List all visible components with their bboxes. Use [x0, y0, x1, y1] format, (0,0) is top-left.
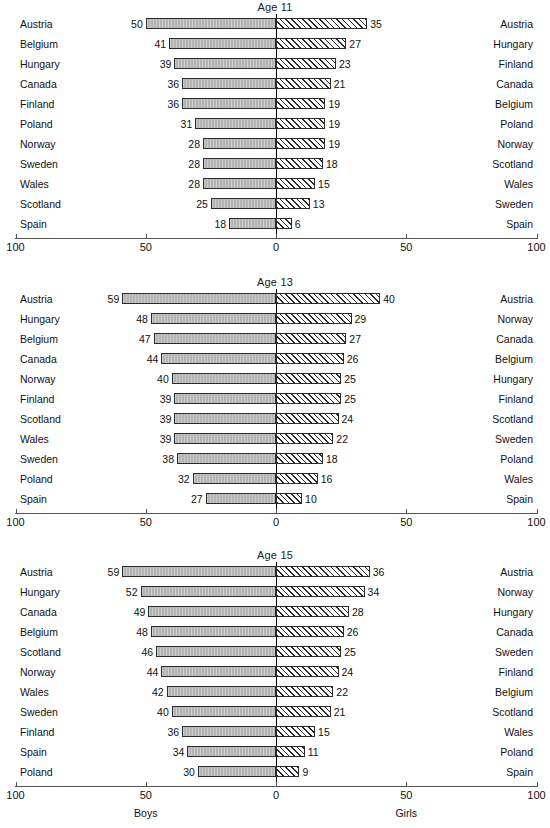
bar-row: SwedenScotland4021: [0, 702, 550, 722]
bar-value-boys: 31: [147, 114, 192, 134]
bar-girls: [276, 686, 333, 697]
panel-age-13: Age 13AustriaAustria5940HungaryNorway482…: [0, 275, 550, 531]
axis-tick: [276, 509, 277, 514]
bar-row: SpainPoland3411: [0, 742, 550, 762]
bar-value-boys: 40: [124, 702, 169, 722]
bar-row: SpainSpain2710: [0, 489, 550, 509]
bar-boys: [161, 353, 276, 364]
bar-boys: [195, 118, 276, 129]
bar-row: NorwayNorway2819: [0, 134, 550, 154]
bar-row: SwedenPoland3818: [0, 449, 550, 469]
bar-value-boys: 18: [181, 214, 226, 234]
bar-girls: [276, 586, 365, 597]
row-label-left: Sweden: [20, 449, 58, 469]
row-label-left: Hungary: [20, 309, 60, 329]
axis-tick: [146, 782, 147, 787]
axis-tick: [406, 234, 407, 239]
row-label-right: Spain: [506, 762, 533, 782]
row-label-left: Spain: [20, 489, 47, 509]
row-label-left: Scotland: [20, 194, 61, 214]
bar-value-girls: 6: [295, 214, 340, 234]
bar-girls: [276, 666, 339, 677]
bar-boys: [174, 413, 276, 424]
row-label-right: Austria: [500, 14, 533, 34]
bar-value-girls: 18: [326, 449, 371, 469]
bar-row: FinlandFinland3925: [0, 389, 550, 409]
row-label-right: Poland: [500, 449, 533, 469]
bar-value-boys: 28: [155, 174, 200, 194]
bar-value-boys: 32: [145, 469, 190, 489]
bar-value-boys: 50: [98, 14, 143, 34]
bar-boys: [148, 606, 276, 617]
axis-tick: [537, 509, 538, 514]
row-label-left: Scotland: [20, 642, 61, 662]
bar-row: NorwayHungary4025: [0, 369, 550, 389]
bar-girls: [276, 198, 310, 209]
axis-tick-label: 0: [273, 788, 279, 802]
bar-boys: [151, 626, 276, 637]
plot-area: AustriaAustria5035BelgiumHungary4127Hung…: [0, 14, 550, 234]
bar-boys: [122, 566, 276, 577]
row-label-left: Canada: [20, 349, 57, 369]
bar-row: SpainSpain186: [0, 214, 550, 234]
bar-value-girls: 27: [349, 329, 394, 349]
axis-tick-label: 100: [6, 788, 24, 802]
row-label-right: Scotland: [492, 154, 533, 174]
axis-captions: BoysGirls: [0, 804, 550, 822]
bar-value-boys: 39: [126, 409, 171, 429]
bar-row: AustriaAustria5035: [0, 14, 550, 34]
row-label-left: Norway: [20, 134, 56, 154]
bar-value-girls: 15: [318, 174, 363, 194]
bar-boys: [156, 646, 276, 657]
bar-girls: [276, 433, 333, 444]
row-label-left: Wales: [20, 429, 49, 449]
row-label-right: Norway: [497, 309, 533, 329]
row-label-right: Poland: [500, 114, 533, 134]
row-label-left: Poland: [20, 469, 53, 489]
row-label-right: Belgium: [495, 349, 533, 369]
row-label-left: Hungary: [20, 582, 60, 602]
bar-row: FinlandBelgium3619: [0, 94, 550, 114]
bar-value-girls: 25: [344, 642, 389, 662]
bar-girls: [276, 413, 339, 424]
row-label-left: Norway: [20, 662, 56, 682]
bar-girls: [276, 746, 305, 757]
bar-boys: [182, 98, 276, 109]
bar-row: HungaryFinland3923: [0, 54, 550, 74]
bar-value-boys: 36: [134, 94, 179, 114]
bar-row: WalesBelgium4222: [0, 682, 550, 702]
bar-row: PolandPoland3119: [0, 114, 550, 134]
bar-boys: [206, 493, 276, 504]
bar-value-boys: 47: [106, 329, 151, 349]
row-label-right: Canada: [496, 329, 533, 349]
bar-value-boys: 42: [119, 682, 164, 702]
axis-tick: [406, 782, 407, 787]
bar-boys: [151, 313, 276, 324]
row-label-right: Hungary: [493, 34, 533, 54]
bar-girls: [276, 293, 380, 304]
caption-boys: Boys: [134, 806, 157, 820]
bar-value-boys: 59: [74, 562, 119, 582]
bar-girls: [276, 473, 318, 484]
bar-value-girls: 24: [342, 662, 387, 682]
bar-value-girls: 18: [326, 154, 371, 174]
bar-girls: [276, 18, 367, 29]
bar-value-girls: 40: [383, 289, 428, 309]
bar-boys: [203, 178, 276, 189]
bar-girls: [276, 493, 302, 504]
bar-boys: [154, 333, 276, 344]
bar-row: BelgiumHungary4127: [0, 34, 550, 54]
bar-value-girls: 34: [368, 582, 413, 602]
bar-value-girls: 25: [344, 369, 389, 389]
bar-boys: [177, 453, 276, 464]
bar-boys: [182, 726, 276, 737]
bar-value-girls: 11: [308, 742, 353, 762]
bar-girls: [276, 178, 315, 189]
bar-row: AustriaAustria5936: [0, 562, 550, 582]
panel-age-11: Age 11AustriaAustria5035BelgiumHungary41…: [0, 0, 550, 256]
bar-value-girls: 25: [344, 389, 389, 409]
bar-row: ScotlandSweden4625: [0, 642, 550, 662]
bar-boys: [172, 373, 276, 384]
row-label-right: Finland: [499, 54, 533, 74]
row-label-right: Hungary: [493, 369, 533, 389]
